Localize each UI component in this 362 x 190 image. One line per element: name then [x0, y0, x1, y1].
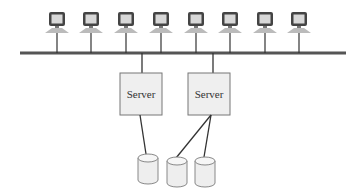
workstation-icon — [114, 12, 138, 53]
disk-icon — [195, 157, 215, 187]
workstation-icon — [218, 12, 242, 53]
workstation-icon — [149, 12, 173, 53]
disks — [138, 154, 215, 187]
server-box: Server — [120, 53, 162, 115]
storage-link — [176, 115, 211, 158]
workstation-icon — [79, 12, 103, 53]
workstation-icon — [45, 12, 69, 53]
disk-icon — [138, 154, 158, 184]
server-box: Server — [188, 53, 230, 115]
storage-link — [140, 115, 146, 154]
server-label: Server — [127, 88, 156, 100]
workstation-icon — [184, 12, 208, 53]
storage-connections — [140, 115, 211, 158]
workstations — [45, 12, 311, 53]
server-label: Server — [195, 88, 224, 100]
disk-icon — [167, 157, 187, 187]
workstation-icon — [287, 12, 311, 53]
workstation-icon — [253, 12, 277, 53]
servers: ServerServer — [120, 53, 230, 115]
network-diagram: ServerServer — [0, 0, 362, 190]
